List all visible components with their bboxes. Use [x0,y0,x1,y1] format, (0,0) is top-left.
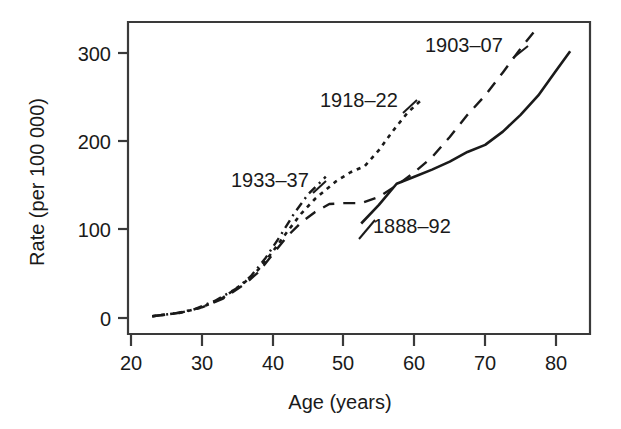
x-tick-label-40: 40 [262,352,284,374]
y-tick-label-200: 200 [78,131,111,153]
x-tick-label-80: 80 [545,352,567,374]
series-group [152,31,570,316]
x-tick-label-60: 60 [403,352,425,374]
annotation-leaders [313,46,528,239]
x-axis-ticks [131,334,556,346]
y-axis-tick-labels: 0 100 200 300 [78,43,111,330]
plot-box-border [128,22,590,334]
series-line-1918-22 [152,100,421,316]
series-line-1933-37 [152,177,326,317]
leader-line-1918-22 [403,100,417,113]
x-tick-label-30: 30 [191,352,213,374]
chart-figure: 0 100 200 300 20 30 40 50 60 70 80 Age (… [0,0,621,429]
series-label-1888-92: 1888–92 [373,215,451,237]
x-tick-label-50: 50 [332,352,354,374]
x-tick-label-70: 70 [474,352,496,374]
series-label-1903-07: 1903–07 [425,34,503,56]
y-axis-ticks [118,53,128,318]
plot-frame [128,22,590,334]
series-line-1888-92 [361,51,570,223]
y-tick-label-0: 0 [100,308,111,330]
y-tick-label-300: 300 [78,43,111,65]
series-label-1933-37: 1933–37 [231,169,309,191]
x-axis-tick-labels: 20 30 40 50 60 70 80 [120,352,567,374]
x-tick-label-20: 20 [120,352,142,374]
y-axis-title: Rate (per 100 000) [26,98,48,266]
leader-line-1903-07 [513,46,528,58]
x-axis-title: Age (years) [288,391,391,413]
series-line-1903-07 [152,31,535,316]
series-label-1918-22: 1918–22 [320,89,398,111]
series-annotations: 1903–07 1918–22 1933–37 1888–92 [231,34,503,237]
line-chart: 0 100 200 300 20 30 40 50 60 70 80 Age (… [0,0,621,429]
y-tick-label-100: 100 [78,219,111,241]
